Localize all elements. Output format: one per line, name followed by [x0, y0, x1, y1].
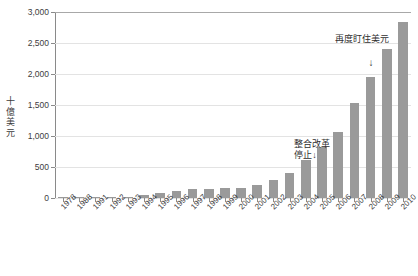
y-axis-tick-label: 500 — [3, 162, 49, 172]
annotation-line-2-wrap: 停止↓ — [294, 150, 330, 161]
y-axis-tick-label: 0 — [3, 193, 49, 203]
bar — [285, 173, 295, 198]
bar — [398, 22, 408, 199]
annotation-arrow-inline: ↓ — [312, 150, 317, 160]
bar — [382, 49, 392, 198]
y-axis-tick — [51, 105, 55, 106]
annotation-line-1: 整合改革 — [294, 139, 330, 150]
annotation-repeg-text: 再度盯住美元 — [335, 34, 389, 44]
y-axis-tick-label: 1,000 — [3, 131, 49, 141]
y-axis-tick — [51, 74, 55, 75]
y-axis-tick-label: 2,000 — [3, 69, 49, 79]
bar — [301, 160, 311, 198]
annotation-line-2: 停止 — [294, 150, 312, 160]
bar — [366, 77, 376, 198]
y-axis-tick — [51, 198, 55, 199]
annotation-integration-reform-halt: 整合改革 停止↓ — [294, 139, 330, 161]
y-axis-tick — [51, 12, 55, 13]
bar — [333, 132, 343, 198]
gridline — [55, 12, 411, 13]
y-axis-tick — [51, 43, 55, 44]
annotation-repeg-to-usd: 再度盯住美元 — [335, 34, 389, 45]
y-axis-tick-label: 1,500 — [3, 100, 49, 110]
y-axis-tick — [51, 167, 55, 168]
y-axis-tick-label: 2,500 — [3, 38, 49, 48]
y-axis-tick — [51, 136, 55, 137]
gridline — [55, 74, 411, 75]
bar — [350, 103, 360, 198]
annotation-repeg-arrow: ↓ — [369, 58, 374, 68]
y-axis-tick-label: 3,000 — [3, 7, 49, 17]
